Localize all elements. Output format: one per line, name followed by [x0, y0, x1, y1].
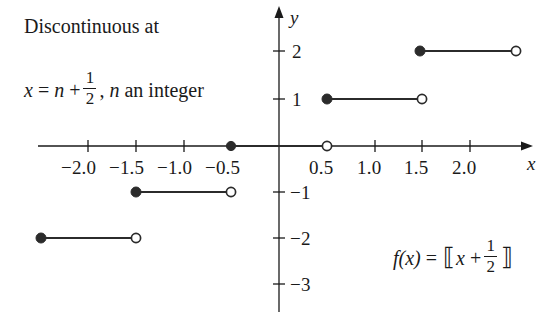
x-tick-label-2.0: 2.0 — [452, 158, 476, 177]
x-tick-label--2.0: −2.0 — [61, 158, 96, 177]
y-tick-label--2: −2 — [290, 229, 311, 248]
step-segment-y2 — [415, 46, 521, 56]
y-tick-label--3: −3 — [290, 275, 311, 294]
x-tick-label--0.5: −0.5 — [205, 158, 240, 177]
step-segment-ym2 — [36, 233, 141, 243]
step-segment-ym1 — [131, 187, 236, 197]
discontinuity-note-line2: x = n + 1 2 , n an integer — [24, 70, 204, 109]
note-fraction-one-half: 1 2 — [83, 69, 96, 108]
note-fraction-numerator: 1 — [84, 69, 97, 87]
step-function-figure: −2.0 −1.5 −1.0 −0.5 0.5 1.0 1.5 2.0 2 1 … — [0, 0, 552, 316]
formula-fraction-denominator: 2 — [484, 258, 497, 276]
formula-plus: + — [470, 248, 481, 268]
x-axis-label: x — [527, 154, 535, 173]
x-tick-label--1.0: −1.0 — [157, 158, 192, 177]
note-fraction-denominator: 2 — [84, 90, 97, 108]
note-tail: an integer — [124, 80, 203, 100]
x-tick-label-0.5: 0.5 — [309, 158, 333, 177]
formula-open-double-bracket: ⟦ — [442, 247, 456, 269]
formula-fraction-one-half: 1 2 — [484, 237, 497, 276]
formula-close-double-bracket: ⟧ — [500, 247, 514, 269]
y-tick-label-2: 2 — [292, 42, 302, 61]
x-tick-label--1.5: −1.5 — [109, 158, 144, 177]
y-axis-label: y — [290, 8, 298, 27]
note-equals: = — [38, 80, 49, 100]
note-comma: , — [99, 80, 104, 100]
function-formula: f(x) = ⟦ x + 1 2 ⟧ — [393, 238, 514, 277]
y-tick-label--1: −1 — [290, 183, 311, 202]
note-var-n: n — [54, 80, 64, 100]
step-segment-y1 — [322, 94, 427, 104]
x-tick-label-1.0: 1.0 — [357, 158, 381, 177]
y-axis-arrow — [275, 6, 284, 18]
formula-equals: = — [426, 248, 437, 268]
x-tick-label-1.5: 1.5 — [404, 158, 428, 177]
formula-fx: f(x) — [393, 248, 421, 268]
note-var-n-2: n — [109, 80, 119, 100]
note-plus: + — [69, 80, 80, 100]
note-var-x: x — [24, 80, 33, 100]
discontinuity-note-line1: Discontinuous at — [24, 16, 159, 37]
formula-fraction-numerator: 1 — [484, 237, 497, 255]
y-tick-label-1: 1 — [292, 90, 302, 109]
x-axis-arrow — [521, 142, 533, 151]
y-axis — [275, 6, 284, 312]
formula-var-x: x — [456, 248, 465, 268]
